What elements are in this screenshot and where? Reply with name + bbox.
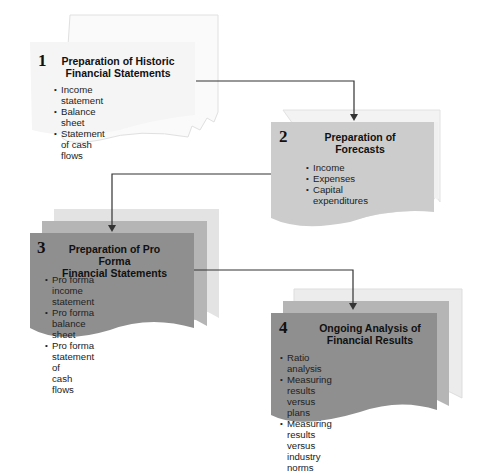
step-4-title-line1: Ongoing Analysis of <box>305 322 435 334</box>
step-3-number: 3 <box>37 239 46 256</box>
step-3-title-line1: Preparation of Pro Forma <box>52 243 177 267</box>
list-item: Measuring results versus plans <box>280 374 332 418</box>
step-2-title-line1: Preparation of <box>310 131 410 143</box>
step-1-title: Preparation of Historic Financial Statem… <box>58 55 178 79</box>
step-1-list: Income statement Balance sheet Statement… <box>54 84 105 161</box>
list-item: Income statement <box>54 84 105 106</box>
step-1-number: 1 <box>38 52 47 69</box>
step-2-title-line2: Forecasts <box>310 143 410 155</box>
step-3-list: Pro forma income statement Pro forma bal… <box>45 274 94 395</box>
step-4-title: Ongoing Analysis of Financial Results <box>305 322 435 346</box>
list-item-continuation-text: cash flows <box>52 373 74 395</box>
step-2-number: 2 <box>279 128 288 145</box>
list-item-continuation: norms <box>280 462 332 473</box>
step-2-list: Income Expenses Capital expenditures <box>306 162 368 206</box>
list-item: Ratio analysis <box>280 352 332 374</box>
list-item: Pro forma balance sheet <box>45 307 94 340</box>
step-4-title-line2: Financial Results <box>305 334 435 346</box>
list-item: Balance sheet <box>54 106 105 128</box>
list-item-continuation-text: norms <box>287 462 314 473</box>
list-item: Pro forma statement of <box>45 340 94 373</box>
list-item: Expenses <box>306 173 368 184</box>
step-4-list: Ratio analysis Measuring results versus … <box>280 352 332 473</box>
list-item: Income <box>306 162 368 173</box>
list-item: Pro forma income statement <box>45 274 94 307</box>
step-1-title-line1: Preparation of Historic <box>58 55 178 67</box>
step-2-title: Preparation of Forecasts <box>310 131 410 155</box>
list-item: Measuring results versus industry <box>280 418 332 462</box>
step-4-number: 4 <box>279 319 288 336</box>
step-1-title-line2: Financial Statements <box>58 67 178 79</box>
list-item-continuation: cash flows <box>45 373 94 395</box>
list-item: Statement of cash flows <box>54 128 105 161</box>
list-item: Capital expenditures <box>306 184 368 206</box>
